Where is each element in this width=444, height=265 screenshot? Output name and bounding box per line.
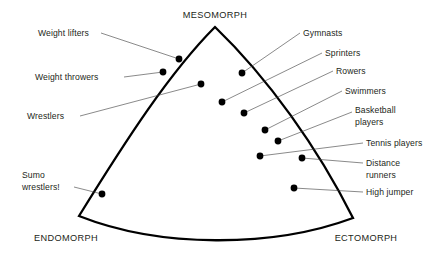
corner-labels-group: MESOMORPHENDOMORPHECTOMORPH [34, 10, 397, 243]
data-point-weight-lifters [176, 56, 183, 63]
data-point-tennis-players [257, 153, 264, 160]
leader-line-sprinters [222, 53, 322, 102]
label-weight-lifters: Weight lifters [38, 28, 89, 38]
label-gymnasts: Gymnasts [303, 28, 342, 38]
label-high-jumper: High jumper [366, 187, 413, 197]
label-rowers: Rowers [336, 66, 366, 76]
athlete-dots-group [99, 56, 306, 198]
label-swimmers: Swimmers [345, 86, 386, 96]
leader-line-sumo-wrestlers [74, 187, 102, 194]
label-basketball-players-line2: players [355, 117, 383, 127]
data-point-basketball-players [275, 138, 282, 145]
leader-line-gymnasts [242, 33, 300, 73]
label-sprinters: Sprinters [325, 48, 360, 58]
label-tennis-players: Tennis players [366, 138, 422, 148]
label-distance-runners: Distance [366, 158, 400, 168]
label-distance-runners-line2: runners [366, 170, 396, 180]
data-point-wrestlers [198, 81, 205, 88]
data-point-swimmers [262, 127, 269, 134]
label-basketball-players: Basketball [355, 105, 396, 115]
data-point-gymnasts [239, 70, 246, 77]
data-point-high-jumper [291, 185, 298, 192]
data-point-distance-runners [299, 155, 306, 162]
data-point-weight-throwers [160, 69, 167, 76]
corner-label-mesomorph: MESOMORPH [183, 10, 247, 20]
leader-line-high-jumper [294, 188, 363, 192]
leader-lines-group [74, 33, 363, 194]
leader-line-weight-lifters [101, 33, 179, 59]
label-wrestlers: Wrestlers [27, 111, 64, 121]
data-point-sprinters [219, 99, 226, 106]
somatotype-diagram: Weight liftersWeight throwersWrestlersSu… [0, 0, 444, 265]
leader-line-rowers [244, 71, 333, 113]
leader-line-wrestlers [80, 84, 201, 116]
leader-line-distance-runners [302, 158, 363, 163]
somatochart-outline [79, 27, 353, 240]
leader-line-basketball-players [278, 112, 352, 141]
label-sumo-wrestlers: Sumo [22, 170, 45, 180]
label-weight-throwers: Weight throwers [35, 72, 98, 82]
data-point-rowers [241, 110, 248, 117]
athlete-labels-group: Weight liftersWeight throwersWrestlersSu… [21, 28, 422, 197]
data-point-sumo-wrestlers [99, 191, 106, 198]
label-sumo-wrestlers-line2: wrestlers! [21, 182, 60, 192]
corner-label-ectomorph: ECTOMORPH [335, 233, 398, 243]
somatochart-canvas: Weight liftersWeight throwersWrestlersSu… [0, 0, 444, 265]
leader-line-weight-throwers [124, 72, 163, 77]
corner-label-endomorph: ENDOMORPH [34, 233, 98, 243]
